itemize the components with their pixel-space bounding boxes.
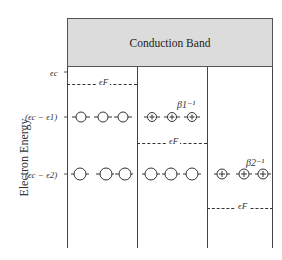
empty-state-icon <box>96 168 114 180</box>
ionized-state-icon <box>255 169 271 179</box>
impurity-states <box>0 0 282 260</box>
empty-state-icon <box>114 112 132 122</box>
ionized-state-icon <box>144 113 160 122</box>
empty-state-icon <box>162 168 180 180</box>
ionized-state-icon <box>184 113 200 122</box>
ionized-state-icon <box>214 169 230 179</box>
empty-state-icon <box>142 168 160 180</box>
empty-state-icon <box>183 168 201 180</box>
empty-state-icon <box>71 168 89 180</box>
empty-state-icon <box>94 112 112 122</box>
ionized-state-icon <box>236 169 252 179</box>
empty-state-icon <box>72 112 90 122</box>
empty-state-icon <box>115 168 133 180</box>
ionized-state-icon <box>164 113 180 122</box>
